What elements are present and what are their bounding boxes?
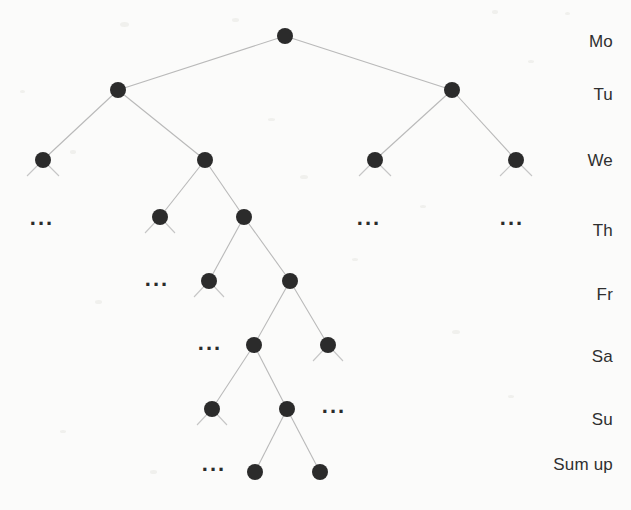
tree-edge bbox=[209, 217, 244, 281]
scan-speck bbox=[268, 118, 275, 121]
tree-edge bbox=[254, 281, 290, 345]
tree-edge bbox=[160, 160, 205, 217]
tree-node bbox=[246, 337, 262, 353]
scan-speck bbox=[565, 12, 570, 15]
scan-speck bbox=[492, 10, 498, 14]
tree-edge bbox=[290, 281, 328, 345]
tree-node bbox=[35, 152, 51, 168]
leaf-stub-layer bbox=[27, 160, 532, 425]
tree-node bbox=[247, 464, 263, 480]
tree-node bbox=[320, 337, 336, 353]
tree-node bbox=[277, 28, 293, 44]
tree-node bbox=[312, 464, 328, 480]
tree-node bbox=[197, 152, 213, 168]
tree-graphic bbox=[0, 0, 631, 510]
tree-edge bbox=[118, 90, 205, 160]
tree-edge bbox=[375, 90, 452, 160]
node-layer bbox=[35, 28, 524, 480]
scan-speck bbox=[420, 205, 426, 208]
tree-node bbox=[508, 152, 524, 168]
scan-speck bbox=[60, 430, 66, 433]
scan-speck bbox=[120, 22, 129, 27]
scan-speck bbox=[300, 175, 308, 179]
tree-edge bbox=[244, 217, 290, 281]
tree-node bbox=[282, 273, 298, 289]
scan-speck bbox=[232, 18, 239, 22]
scan-speck bbox=[70, 150, 76, 154]
scan-speck bbox=[508, 395, 514, 398]
tree-edge bbox=[212, 345, 254, 409]
tree-edge bbox=[43, 90, 118, 160]
tree-edge bbox=[452, 90, 516, 160]
tree-edge bbox=[255, 409, 287, 472]
tree-node bbox=[152, 209, 168, 225]
tree-node bbox=[236, 209, 252, 225]
scan-speck bbox=[528, 60, 534, 63]
tree-node bbox=[279, 401, 295, 417]
tree-edge bbox=[287, 409, 320, 472]
tree-edge bbox=[254, 345, 287, 409]
tree-edge bbox=[118, 36, 285, 90]
tree-diagram-figure: MoTuWeThFrSaSuSum up ...................… bbox=[0, 0, 631, 510]
tree-node bbox=[204, 401, 220, 417]
tree-node bbox=[201, 273, 217, 289]
scan-speck bbox=[95, 300, 102, 304]
scan-speck bbox=[150, 470, 157, 474]
scan-speck bbox=[352, 258, 358, 261]
tree-edge bbox=[285, 36, 452, 90]
scan-speck bbox=[20, 90, 25, 93]
scan-speck bbox=[452, 330, 460, 334]
tree-node bbox=[367, 152, 383, 168]
tree-edge bbox=[205, 160, 244, 217]
tree-node bbox=[444, 82, 460, 98]
tree-node bbox=[110, 82, 126, 98]
